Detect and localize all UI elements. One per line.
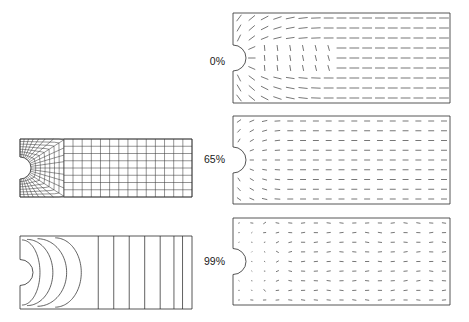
figure-canvas: 0% 65% 99% [0,0,469,322]
figure-root: 0% 65% 99% [0,0,469,322]
stage-label-99-percent: 99% [204,255,225,267]
stage-label-65-percent: 65% [204,153,225,165]
stage-label-0-percent: 0% [210,55,225,67]
